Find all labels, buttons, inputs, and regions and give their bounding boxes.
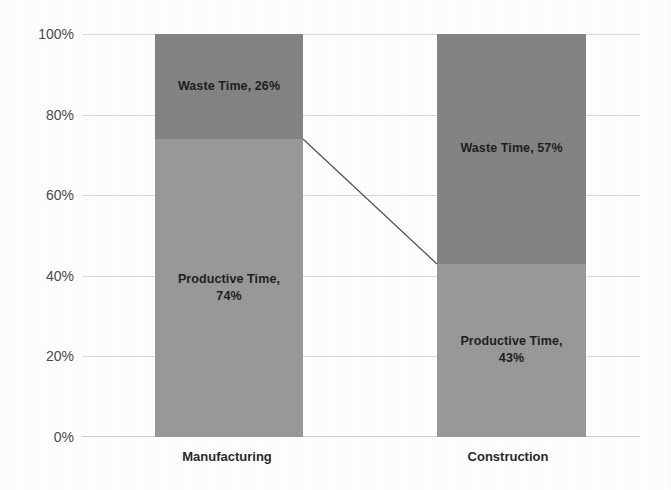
bar-construction[interactable]: Waste Time, 57% Productive Time, 43% [437,34,586,437]
y-tick-100: 100% [10,27,74,41]
y-axis: 100% 80% 60% 40% 20% 0% [0,34,74,437]
bar-segment-manufacturing-waste[interactable]: Waste Time, 26% [155,34,303,139]
bar-segment-construction-waste[interactable]: Waste Time, 57% [437,34,586,264]
plot-area: Waste Time, 26% Productive Time, 74% Was… [82,34,640,437]
bar-segment-manufacturing-productive[interactable]: Productive Time, 74% [155,139,303,437]
data-label-manufacturing-waste: Waste Time, 26% [174,78,284,95]
bar-manufacturing[interactable]: Waste Time, 26% Productive Time, 74% [155,34,303,437]
y-tick-40: 40% [10,269,74,283]
category-label-construction: Construction [363,449,653,464]
bar-segment-construction-productive[interactable]: Productive Time, 43% [437,264,586,437]
data-label-construction-waste: Waste Time, 57% [456,140,566,157]
chart-container: 100% 80% 60% 40% 20% 0% Waste Time, 26% … [0,0,671,490]
y-tick-80: 80% [10,108,74,122]
y-tick-60: 60% [10,188,74,202]
y-tick-0: 0% [10,430,74,444]
data-label-manufacturing-productive: Productive Time, 74% [174,271,284,305]
category-label-manufacturing: Manufacturing [82,449,372,464]
y-tick-20: 20% [10,349,74,363]
data-label-construction-productive: Productive Time, 43% [456,333,566,367]
